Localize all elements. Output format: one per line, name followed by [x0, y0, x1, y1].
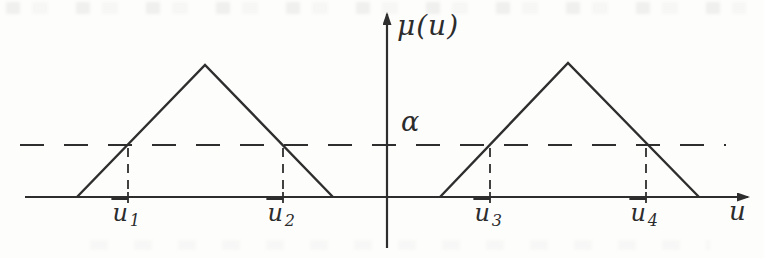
u-mark-label: u3: [473, 198, 502, 229]
u-subscript: 3: [492, 211, 502, 230]
membership-triangle: [440, 63, 699, 197]
u-mark-label: u1: [111, 198, 140, 229]
u-bar: u: [629, 198, 646, 226]
u-mark-label: u2: [266, 198, 295, 229]
y-axis-label: μ(u): [397, 12, 459, 40]
u-subscript: 1: [130, 211, 140, 230]
u-bar: u: [473, 198, 490, 226]
alpha-label: α: [401, 108, 419, 135]
u-mark-label: u4: [629, 198, 658, 229]
u-bar: u: [111, 198, 128, 226]
u-subscript: 4: [648, 211, 658, 230]
u-subscript: 2: [285, 211, 295, 230]
figure-page: μ(u) α u u1u2u3u4: [0, 0, 764, 258]
membership-triangle: [77, 65, 333, 197]
x-axis-label: u: [729, 198, 746, 224]
u-bar: u: [266, 198, 283, 226]
